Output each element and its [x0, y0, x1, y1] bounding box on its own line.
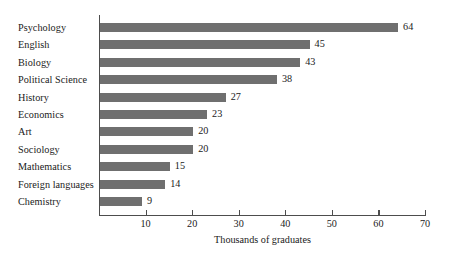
x-axis-tick [332, 210, 333, 215]
bar [100, 93, 226, 102]
bar [100, 40, 310, 49]
category-label: Art [18, 126, 32, 137]
category-label: Foreign languages [18, 179, 94, 190]
x-axis-tick [239, 210, 240, 215]
bar-value-label: 45 [315, 38, 325, 50]
x-axis-tick-label: 70 [420, 218, 430, 230]
category-label: English [18, 39, 49, 50]
x-axis-tick-label: 60 [373, 218, 383, 230]
bar-value-label: 23 [212, 108, 222, 120]
plot-area: 644543382723202015149 [99, 15, 429, 215]
x-axis-tick-label: 40 [280, 218, 290, 230]
x-axis-tick-label: 50 [327, 218, 337, 230]
category-label: Biology [18, 57, 51, 68]
bar-value-label: 20 [198, 143, 208, 155]
x-axis-tick [425, 210, 426, 215]
bar-value-label: 43 [305, 56, 315, 68]
x-axis-tick-label: 20 [187, 218, 197, 230]
bar [100, 110, 207, 119]
bar-value-label: 20 [198, 125, 208, 137]
x-axis: Thousands of graduates 10203040506070 [99, 215, 429, 260]
x-axis-tick [285, 210, 286, 215]
category-label: Sociology [18, 144, 60, 155]
bar [100, 162, 170, 171]
x-axis-title: Thousands of graduates [99, 234, 426, 245]
category-label: Economics [18, 109, 64, 120]
bar-value-label: 9 [147, 195, 152, 207]
x-axis-tick [378, 210, 379, 215]
bar [100, 127, 193, 136]
x-axis-tick [146, 210, 147, 215]
category-axis-labels: PsychologyEnglishBiologyPolitical Scienc… [18, 19, 98, 215]
bar-chart: PsychologyEnglishBiologyPolitical Scienc… [0, 0, 449, 260]
bar-value-label: 15 [175, 160, 185, 172]
x-axis-tick-label: 10 [140, 218, 150, 230]
bar [100, 180, 165, 189]
category-label: Chemistry [18, 196, 61, 207]
category-label: Mathematics [18, 161, 71, 172]
bar [100, 58, 300, 67]
bar [100, 197, 142, 206]
bar-value-label: 14 [170, 178, 180, 190]
bar [100, 145, 193, 154]
x-axis-tick-label: 30 [234, 218, 244, 230]
bar-value-label: 27 [231, 91, 241, 103]
category-label: History [18, 92, 49, 103]
category-label: Psychology [18, 22, 66, 33]
x-axis-line [99, 215, 426, 216]
category-label: Political Science [18, 74, 87, 85]
bar [100, 75, 277, 84]
bar-value-label: 64 [403, 21, 413, 33]
bar [100, 23, 398, 32]
bar-value-label: 38 [282, 73, 292, 85]
x-axis-tick [192, 210, 193, 215]
